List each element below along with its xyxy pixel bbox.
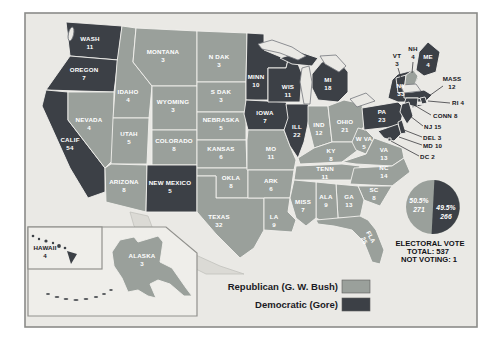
label-md: MD 10 [423, 142, 443, 149]
legend-republican-label: Republican (G. W. Bush) [228, 281, 338, 292]
legend-republican-swatch [342, 280, 370, 293]
map-canvas: WASH11 OREGON7 CALIF54 NEVADA4 IDAHO4 MO… [0, 0, 498, 352]
label-ri: RI 4 [452, 99, 465, 106]
legend-democratic-label: Democratic (Gore) [255, 299, 338, 310]
label-mich: MI18 [324, 76, 332, 91]
label-del: DEL 3 [423, 134, 442, 141]
pie-democratic-pct: 49.5% [435, 204, 455, 211]
electoral-pie-chart: 50.5% 271 49.5% 266 [406, 180, 460, 234]
label-conn: CONN 8 [433, 112, 458, 119]
summary-not-voting: NOT VOTING: 1 [401, 255, 458, 264]
label-nj: NJ 15 [424, 123, 442, 130]
label-va: VA13 [380, 146, 389, 161]
pie-republican-pct: 50.5% [409, 197, 428, 204]
label-nc: NC14 [379, 164, 389, 179]
pie-democratic-votes: 266 [439, 213, 452, 220]
label-dc: DC 2 [420, 153, 435, 160]
label-pa: PA23 [378, 108, 387, 123]
label-ill: ILL22 [292, 123, 302, 138]
state-dc [388, 138, 391, 141]
pie-republican-votes: 271 [412, 206, 425, 213]
legend-democratic-swatch [342, 298, 370, 311]
electoral-map-figure: WASH11 OREGON7 CALIF54 NEVADA4 IDAHO4 MO… [0, 0, 498, 352]
